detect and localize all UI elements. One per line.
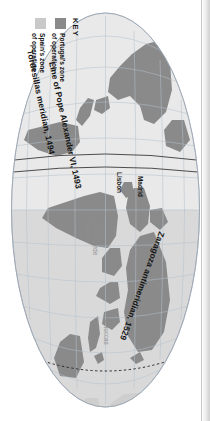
legend-swatch-portugal (55, 18, 66, 29)
legend-label-spain-line1: Spain's zone (38, 33, 46, 73)
label-cape-verde-islands: Cape Verde Islands (85, 222, 98, 255)
map-canvas: Zaragoza antimeridian, 1529 Line of Pope… (5, 0, 206, 421)
page-edge-line (201, 0, 202, 421)
legend-label-portugal-line1: Portugal's zone (58, 33, 66, 82)
legend-swatch-spain (35, 18, 46, 29)
figure-page: Zaragoza antimeridian, 1529 Line of Pope… (0, 0, 210, 421)
legend-label-spain: Spain's zone of operation (30, 33, 46, 73)
legend-item-spain: Spain's zone of operation (30, 18, 46, 82)
map-legend: KEY Portugal's zone of operation Spain's… (26, 18, 80, 82)
label-moluccas: Moluccas (102, 318, 108, 345)
page-gutter (201, 0, 210, 421)
label-cape-verde-islands-line2: Islands (84, 222, 90, 255)
label-cape-verde-islands-line1: Cape Verde (91, 222, 97, 255)
legend-label-portugal: Portugal's zone of operation (50, 33, 66, 82)
legend-label-spain-line2: of operation (30, 33, 38, 73)
label-lisbon: Lisbon (115, 172, 121, 193)
legend-title: KEY (71, 18, 80, 82)
legend-item-portugal: Portugal's zone of operation (50, 18, 66, 82)
label-madrid: Madrid (136, 176, 142, 197)
legend-label-portugal-line2: of operation (50, 33, 58, 82)
